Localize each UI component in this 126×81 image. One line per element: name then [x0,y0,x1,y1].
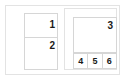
layout-frame: 1 2 3 4 5 6 [5,5,120,75]
region-3-label: 3 [107,21,113,31]
region-2-label: 2 [49,41,55,51]
cell-6[interactable]: 6 [102,53,117,69]
left-panel[interactable]: 1 2 [24,13,58,70]
cell-4[interactable]: 4 [73,53,87,69]
region-3[interactable]: 3 [73,17,117,53]
cell-4-label: 4 [78,57,83,66]
cell-6-label: 6 [107,57,112,66]
region-1-label: 1 [49,20,55,30]
region-2[interactable]: 2 [25,38,57,69]
right-panel[interactable]: 3 4 5 6 [64,8,117,70]
cell-5-label: 5 [92,57,97,66]
region-1[interactable]: 1 [25,14,57,38]
bottom-cell-row: 4 5 6 [73,53,117,69]
cell-5[interactable]: 5 [87,53,101,69]
